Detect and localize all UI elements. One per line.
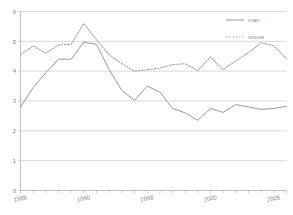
x-tick-label-2000: 2000 [203, 194, 218, 202]
chart-container: 0123456 19851990199520002005 manvrouw [0, 0, 293, 215]
y-tick-label-0: 0 [13, 188, 17, 194]
y-tick-label-1: 1 [13, 158, 17, 164]
grid-lines [21, 12, 287, 161]
y-tick-label-4: 4 [13, 68, 17, 74]
x-tick-label-2005: 2005 [266, 194, 281, 202]
x-tick-label-1990: 1990 [76, 194, 91, 202]
line-chart-plot: 0123456 19851990199520002005 manvrouw [0, 0, 293, 215]
x-axis-tick-labels: 19851990199520002005 [13, 194, 281, 202]
series-lines [21, 23, 287, 120]
y-axis-tick-labels: 0123456 [13, 9, 21, 194]
y-tick-label-3: 3 [13, 98, 17, 104]
legend-label-man: man [248, 17, 260, 23]
y-tick-label-2: 2 [13, 128, 17, 134]
x-tick-label-1995: 1995 [140, 194, 155, 202]
x-tick-label-1985: 1985 [13, 194, 28, 202]
series-line-vrouw [21, 23, 287, 71]
legend-label-vrouw: vrouw [248, 34, 265, 40]
chart-legend: manvrouw [226, 17, 265, 40]
y-tick-label-5: 5 [13, 39, 17, 45]
y-tick-label-6: 6 [13, 9, 17, 15]
